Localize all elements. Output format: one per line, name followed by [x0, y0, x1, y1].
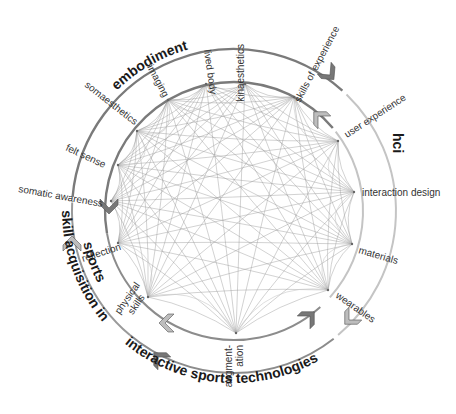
edge [245, 84, 352, 244]
concept-network-diagram: lived bodykinaestheticsskills of experie… [0, 0, 456, 414]
node-user-experience [337, 140, 339, 142]
node-felt-sense [117, 164, 119, 166]
group-label-embodiment: embodiment [108, 37, 190, 93]
edge [168, 100, 352, 244]
edge [348, 192, 354, 244]
edge [148, 192, 354, 297]
edge [137, 84, 206, 131]
node-imaging [167, 99, 169, 101]
node-somaesthetics [136, 130, 138, 132]
edge [328, 192, 354, 290]
group-label-interactive-sports-technologies: interactive sports technologies [123, 334, 321, 387]
node-augmentation [235, 332, 237, 334]
node-reflection [117, 242, 119, 244]
group-label-skill-acq-line1: skill acquisition in [59, 210, 113, 324]
edge [118, 141, 338, 243]
edge [118, 243, 328, 290]
edge [118, 242, 352, 244]
node-labels: lived bodykinaestheticsskills of experie… [18, 24, 441, 387]
node-materials [351, 243, 353, 245]
edge [236, 97, 294, 333]
node-label-somatic-awareness: somatic awareness [18, 183, 104, 209]
edge [111, 84, 245, 201]
group-label-hci: hci [390, 133, 406, 153]
node-label-lived-body: lived body [202, 49, 219, 95]
edge [148, 297, 236, 333]
edge [206, 84, 236, 333]
edge [118, 165, 352, 244]
node-lived-body [205, 83, 207, 85]
node-physical-skills [147, 296, 149, 298]
node-wearables [327, 289, 329, 291]
edge [327, 141, 338, 290]
edge [148, 289, 328, 297]
node-label-interaction-design: interaction design [362, 187, 440, 198]
node-label-materials: materials [357, 244, 399, 266]
node-skills-of-experience [293, 96, 295, 98]
node-interaction-design [353, 191, 355, 193]
node-label-kinaesthetics: kinaesthetics [235, 44, 246, 102]
edge [148, 97, 294, 297]
node-somatic-awareness [110, 200, 112, 202]
edge [206, 84, 354, 192]
node-kinaesthetics [244, 83, 246, 85]
edge [118, 165, 328, 290]
inner-ring-hci-arc [330, 132, 363, 298]
edge [118, 141, 338, 165]
